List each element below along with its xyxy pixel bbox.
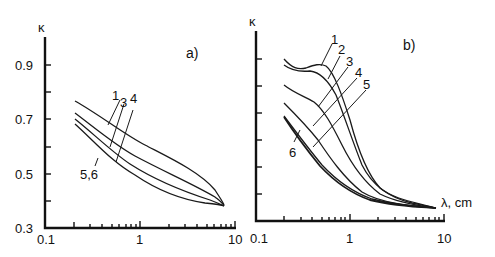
y-tick-label: 0.7 <box>15 112 33 127</box>
curve-label-b-2: 2 <box>338 42 345 57</box>
curve-label-a-3: 3 <box>120 95 127 110</box>
panel-b: κ 0.1 1 10 λ, cm b) 1 2 3 4 5 6 <box>249 14 472 246</box>
curve-label-a-4: 4 <box>130 91 137 106</box>
y-tick-label: 0.9 <box>15 58 33 73</box>
x-tick-label: 0.1 <box>250 231 268 246</box>
x-tick-label: 0.1 <box>37 232 55 247</box>
panel-label-b: b) <box>403 37 415 53</box>
x-tick-label: 10 <box>437 231 451 246</box>
y-tick-label: 0.3 <box>15 221 33 236</box>
curve-label-b-4: 4 <box>355 65 362 80</box>
curve-label-a-1: 1 <box>112 88 119 103</box>
y-axis-label-a: κ <box>38 20 45 35</box>
x-tick-label: 10 <box>228 232 242 247</box>
panel-a: κ 0.9 0.7 0.5 0.3 0.1 1 10 a) 1 3 4 5,6 <box>15 20 242 247</box>
curve-b-4 <box>284 103 436 208</box>
curve-label-b-5: 5 <box>363 77 370 92</box>
curve-label-b-3: 3 <box>346 54 353 69</box>
curve-label-b-6: 6 <box>289 145 296 160</box>
y-tick-label: 0.5 <box>15 167 33 182</box>
curve-b-2 <box>284 65 436 208</box>
figure: κ 0.9 0.7 0.5 0.3 0.1 1 10 a) 1 3 4 5,6 <box>0 0 495 257</box>
curve-a-56 <box>75 124 224 206</box>
curve-b-5 <box>284 116 436 208</box>
x-tick-label: 1 <box>136 232 143 247</box>
curve-a-4 <box>75 119 224 206</box>
curve-b-1 <box>284 59 436 208</box>
curve-label-a-56: 5,6 <box>80 167 98 182</box>
x-tick-label: 1 <box>346 231 353 246</box>
x-axis-label-b: λ, cm <box>441 195 472 210</box>
panel-label-a: a) <box>186 45 198 61</box>
y-axis-label-b: κ <box>249 14 256 29</box>
